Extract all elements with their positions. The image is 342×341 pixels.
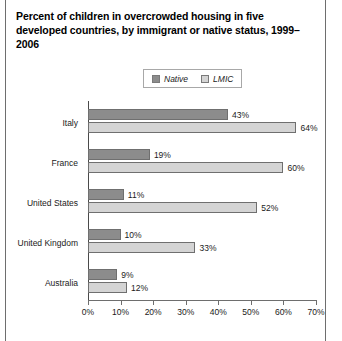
bar-lmic [88, 202, 257, 213]
bar-lmic [88, 282, 127, 293]
bar-native [88, 109, 228, 120]
bar-value-label: 19% [154, 150, 171, 160]
bar-native [88, 229, 121, 240]
x-axis-tick-label: 0% [82, 307, 94, 317]
legend-label-native: Native [164, 74, 188, 84]
x-axis-tick-label: 50% [242, 307, 259, 317]
legend-label-lmic: LMIC [213, 74, 233, 84]
x-axis-tick-label: 40% [210, 307, 227, 317]
chart-category-row: United States11%52% [0, 183, 342, 223]
category-label-wrap: United States [0, 183, 84, 223]
x-axis-tick-label: 30% [177, 307, 194, 317]
bar-value-label: 12% [131, 283, 148, 293]
bar-value-label: 11% [128, 190, 144, 200]
bar-value-label: 64% [300, 123, 317, 133]
bar-value-label: 52% [261, 203, 278, 213]
category-label: Australia [45, 278, 78, 288]
category-label-wrap: Italy [0, 103, 84, 143]
chart-category-row: Australia9%12% [0, 263, 342, 303]
chart-category-row: Italy43%64% [0, 103, 342, 143]
category-label-wrap: Australia [0, 263, 84, 303]
bar-native [88, 269, 117, 280]
bar-value-label: 43% [232, 110, 249, 120]
legend-item-native: Native [152, 74, 188, 84]
chart-title: Percent of children in overcrowded housi… [16, 9, 316, 51]
x-axis-tick-label: 20% [145, 307, 162, 317]
category-label: France [52, 158, 78, 168]
chart-legend: Native LMIC [143, 69, 242, 88]
chart-category-row: France19%60% [0, 143, 342, 183]
legend-swatch-native-icon [152, 75, 160, 83]
legend-item-lmic: LMIC [201, 74, 233, 84]
bar-value-label: 33% [199, 243, 216, 253]
x-axis-tick-label: 70% [307, 307, 324, 317]
bar-lmic [88, 162, 283, 173]
category-label: Italy [62, 118, 78, 128]
bar-lmic [88, 242, 195, 253]
bar-value-label: 60% [287, 163, 304, 173]
x-axis-tick-label: 60% [275, 307, 292, 317]
bar-lmic [88, 122, 296, 133]
x-axis-tick-label: 10% [112, 307, 129, 317]
bar-value-label: 9% [121, 270, 133, 280]
bar-native [88, 149, 150, 160]
category-label-wrap: France [0, 143, 84, 183]
legend-swatch-lmic-icon [201, 75, 209, 83]
chart-category-row: United Kingdom10%33% [0, 223, 342, 263]
bar-native [88, 189, 124, 200]
bar-value-label: 10% [125, 230, 142, 240]
category-label: United Kingdom [18, 238, 78, 248]
chart-figure: Percent of children in overcrowded housi… [0, 0, 342, 341]
category-label-wrap: United Kingdom [0, 223, 84, 263]
category-label: United States [27, 198, 78, 208]
